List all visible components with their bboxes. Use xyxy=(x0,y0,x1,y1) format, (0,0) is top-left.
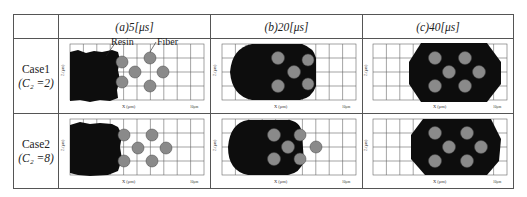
svg-text:10μm: 10μm xyxy=(342,105,350,109)
sim-case2-40us: Z (μm) X (μm) 10μm xyxy=(363,114,514,189)
case-parameter: (C₂ =8) xyxy=(14,151,58,165)
simulation-plot: Z (μm) X (μm) 10μm xyxy=(60,115,210,187)
svg-text:Z (μm): Z (μm) xyxy=(212,139,217,151)
svg-text:X (μm): X (μm) xyxy=(433,179,447,184)
svg-text:X (μm): X (μm) xyxy=(274,179,288,184)
simulation-plot: Z (μm) X (μm) 10μm xyxy=(60,40,210,112)
svg-text:X (μm): X (μm) xyxy=(274,104,288,109)
row-label-case1: Case1 (C₂ =2) xyxy=(14,39,59,114)
case-name: Case2 xyxy=(14,137,58,151)
svg-text:X (μm): X (μm) xyxy=(122,104,136,109)
svg-text:10μm: 10μm xyxy=(493,180,501,184)
sim-case1-5us: Z (μm) X (μm) 10μm Resin Fiber xyxy=(59,39,211,114)
fiber-label: Fiber xyxy=(157,36,178,47)
column-header-5us: (a)5[μs] xyxy=(59,15,211,39)
sim-case2-20us: Z (μm) X (μm) 10μm xyxy=(211,114,363,189)
svg-text:Z (μm): Z (μm) xyxy=(212,64,217,76)
svg-text:Z (μm): Z (μm) xyxy=(60,139,65,151)
sim-case1-20us: Z (μm) X (μm) 10μm xyxy=(211,39,363,114)
case-name: Case1 xyxy=(14,62,58,76)
svg-text:10μm: 10μm xyxy=(190,105,198,109)
simulation-plot: Z (μm) X (μm) 10μm xyxy=(212,40,362,112)
svg-text:X (μm): X (μm) xyxy=(433,104,447,109)
column-header-20us: (b)20[μs] xyxy=(211,15,363,39)
simulation-plot: Z (μm) X (μm) 10μm xyxy=(212,115,362,187)
simulation-plot: Z (μm) X (μm) 10μm xyxy=(363,115,513,187)
svg-text:10μm: 10μm xyxy=(190,180,198,184)
svg-text:10μm: 10μm xyxy=(493,105,501,109)
simulation-plot: Z (μm) X (μm) 10μm xyxy=(363,40,513,112)
sim-case2-5us: Z (μm) X (μm) 10μm xyxy=(59,114,211,189)
figure-table: (a)5[μs] (b)20[μs] (c)40[μs] Case1 (C₂ =… xyxy=(13,14,514,189)
resin-label: Resin xyxy=(111,36,134,47)
corner-cell xyxy=(14,15,59,39)
svg-text:Z (μm): Z (μm) xyxy=(60,64,65,76)
column-header-40us: (c)40[μs] xyxy=(363,15,514,39)
svg-text:X (μm): X (μm) xyxy=(122,179,136,184)
svg-text:Z (μm): Z (μm) xyxy=(363,139,368,151)
row-label-case2: Case2 (C₂ =8) xyxy=(14,114,59,189)
svg-text:10μm: 10μm xyxy=(342,180,350,184)
case-parameter: (C₂ =2) xyxy=(14,76,58,90)
sim-case1-40us: Z (μm) X (μm) 10μm xyxy=(363,39,514,114)
svg-text:Z (μm): Z (μm) xyxy=(363,64,368,76)
